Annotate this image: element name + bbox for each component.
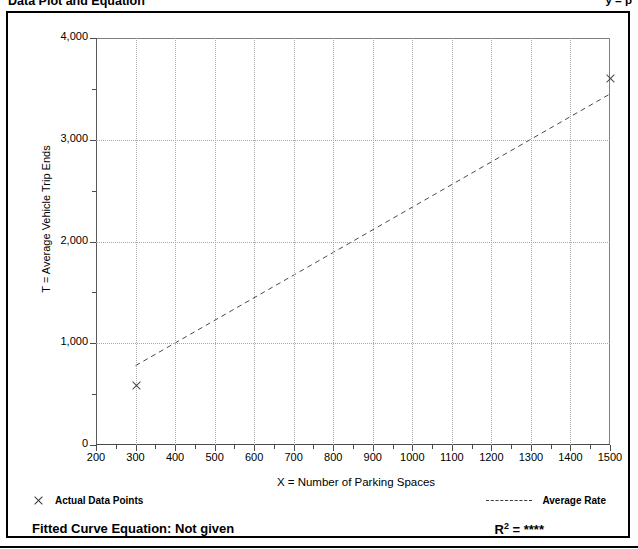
y-axis-minor-tick [92,394,96,395]
x-axis-minor-tick [432,445,433,449]
x-axis-minor-tick [274,445,275,449]
legend-label-data-points: Actual Data Points [55,495,143,506]
page-header-note: y = p [605,0,632,6]
chart-legend: Actual Data Points Average Rate [8,495,628,515]
x-axis-minor-tick [313,445,314,449]
y-axis-tick-label: 0 [22,437,88,449]
y-axis-tick-label: 4,000 [22,30,88,42]
dashed-line-icon [486,500,532,501]
x-axis-minor-tick [116,445,117,449]
y-axis-tick [90,38,96,39]
cross-marker-icon [32,495,43,506]
x-axis-minor-tick [195,445,196,449]
y-axis-tick-label: 1,000 [22,335,88,347]
y-axis-tick [90,445,96,446]
legend-entry-average-rate: Average Rate [486,495,606,506]
y-axis-minor-tick [92,191,96,192]
x-axis-minor-tick [472,445,473,449]
x-axis-minor-tick [234,445,235,449]
legend-label-average-rate: Average Rate [542,495,606,506]
x-axis-minor-tick [353,445,354,449]
r-squared-exponent: 2 [504,521,509,531]
y-axis-tick-label: 3,000 [22,132,88,144]
gridline-horizontal [96,242,610,243]
x-axis-minor-tick [551,445,552,449]
gridline-horizontal [96,140,610,141]
fitted-curve-value: Not given [175,521,234,536]
y-axis-tick [90,140,96,141]
y-axis-tick-label: 2,000 [22,234,88,246]
r-squared: R2 = **** [495,521,545,537]
r-squared-value: **** [524,522,544,537]
legend-entry-data-points: Actual Data Points [32,495,143,506]
x-axis-minor-tick [393,445,394,449]
page-bottom-rule [0,546,638,548]
data-point-marker [605,73,616,84]
y-axis-title: T = Average Vehicle Trip Ends [40,89,52,349]
x-axis-minor-tick [590,445,591,449]
chart-area: T = Average Vehicle Trip Ends X = Number… [8,13,628,491]
page-title: Data Plot and Equation [8,0,145,8]
fitted-curve-equation: Fitted Curve Equation: Not given [32,521,234,536]
x-axis-tick-label: 1500 [580,451,638,463]
x-axis-minor-tick [511,445,512,449]
equation-row: Fitted Curve Equation: Not given R2 = **… [8,521,628,543]
y-axis-tick [90,242,96,243]
r-squared-equals: = [513,522,524,537]
y-axis-minor-tick [92,292,96,293]
fitted-curve-label: Fitted Curve Equation: [32,521,171,536]
r-squared-label: R [495,522,504,537]
plot-area [96,38,610,445]
data-point-marker [130,380,141,391]
y-axis-tick [90,343,96,344]
x-axis-minor-tick [155,445,156,449]
gridline-horizontal [96,343,610,344]
chart-card: T = Average Vehicle Trip Ends X = Number… [6,11,630,538]
x-axis-title: X = Number of Parking Spaces [96,476,616,488]
y-axis-minor-tick [92,89,96,90]
